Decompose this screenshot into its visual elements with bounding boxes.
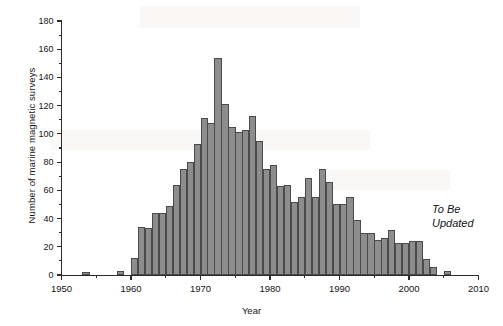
- y-tick-major: [57, 133, 62, 134]
- x-tick-label: 1960: [111, 283, 151, 294]
- x-tick-minor: [443, 275, 444, 278]
- y-tick-major: [57, 218, 62, 219]
- y-tick-label: 60: [20, 185, 54, 195]
- x-tick-minor: [374, 275, 375, 278]
- y-tick-minor: [59, 204, 62, 205]
- bar: [444, 271, 451, 275]
- x-tick-major: [478, 275, 479, 280]
- x-tick-label: 1980: [250, 283, 290, 294]
- bar: [430, 267, 437, 275]
- y-tick-minor: [59, 63, 62, 64]
- y-tick-major: [57, 105, 62, 106]
- x-tick-label: 1950: [42, 283, 82, 294]
- x-tick-minor: [165, 275, 166, 278]
- y-tick-label: 160: [20, 44, 54, 54]
- y-tick-minor: [59, 91, 62, 92]
- y-tick-minor: [59, 176, 62, 177]
- x-tick-label: 1990: [320, 283, 360, 294]
- y-tick-label: 180: [20, 16, 54, 26]
- y-tick-label: 100: [20, 129, 54, 139]
- plot-area: 020406080100120140160180 195019601970198…: [0, 0, 503, 326]
- chart-figure: Number of marine magnetic surveys Year T…: [0, 0, 503, 326]
- y-tick-major: [57, 190, 62, 191]
- y-tick-minor: [59, 260, 62, 261]
- y-tick-minor: [59, 35, 62, 36]
- x-tick-minor: [304, 275, 305, 278]
- x-tick-label: 2000: [389, 283, 429, 294]
- y-tick-major: [57, 77, 62, 78]
- y-tick-label: 20: [20, 242, 54, 252]
- y-tick-minor: [59, 119, 62, 120]
- y-tick-major: [57, 20, 62, 21]
- x-tick-major: [130, 275, 131, 280]
- x-tick-minor: [96, 275, 97, 278]
- bar: [82, 272, 89, 275]
- y-tick-label: 120: [20, 101, 54, 111]
- y-tick-label: 0: [20, 270, 54, 280]
- x-tick-major: [408, 275, 409, 280]
- y-tick-major: [57, 246, 62, 247]
- x-tick-major: [339, 275, 340, 280]
- y-tick-label: 40: [20, 214, 54, 224]
- x-tick-major: [200, 275, 201, 280]
- y-tick-label: 140: [20, 72, 54, 82]
- bar: [117, 271, 124, 275]
- y-tick-minor: [59, 147, 62, 148]
- y-tick-minor: [59, 232, 62, 233]
- x-tick-label: 1970: [181, 283, 221, 294]
- x-tick-label: 2010: [459, 283, 499, 294]
- y-tick-label: 80: [20, 157, 54, 167]
- x-tick-major: [61, 275, 62, 280]
- x-tick-major: [269, 275, 270, 280]
- x-tick-minor: [235, 275, 236, 278]
- y-tick-major: [57, 162, 62, 163]
- y-tick-major: [57, 49, 62, 50]
